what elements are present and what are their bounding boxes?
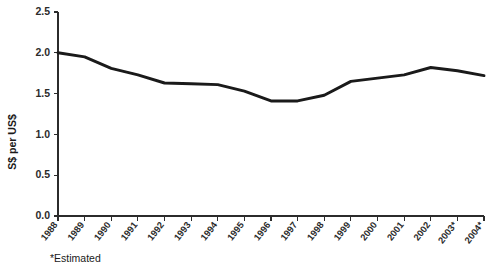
exchange-rate-line-chart: 0.00.51.01.52.02.5 198819891990199119921… bbox=[0, 0, 498, 275]
y-tick-label: 2.5 bbox=[35, 5, 50, 17]
y-tick-label: 1.5 bbox=[35, 87, 50, 99]
data-series bbox=[58, 53, 484, 101]
x-tick-label: 2000 bbox=[358, 220, 379, 242]
x-tick-label: 1996 bbox=[252, 220, 273, 242]
x-tick-label: 1994 bbox=[199, 219, 220, 242]
x-tick-label: 1999 bbox=[332, 220, 353, 242]
y-axis: 0.00.51.01.52.02.5 bbox=[35, 5, 58, 221]
x-tick-label: 1997 bbox=[279, 220, 300, 242]
x-tick-label: 1998 bbox=[305, 220, 326, 242]
chart-canvas: 0.00.51.01.52.02.5 198819891990199119921… bbox=[0, 0, 498, 275]
y-tick-label: 0.0 bbox=[35, 209, 50, 221]
x-tick-label: 1990 bbox=[92, 220, 113, 242]
x-tick-label: 1991 bbox=[119, 220, 140, 242]
x-tick-label: 1993 bbox=[172, 220, 193, 242]
footnote-estimated: *Estimated bbox=[50, 252, 101, 264]
x-axis: 1988198919901991199219931994199519961997… bbox=[39, 216, 486, 245]
y-tick-label: 1.0 bbox=[35, 128, 50, 140]
y-axis-title: S$ per US$ bbox=[6, 114, 18, 170]
x-tick-label: 2004* bbox=[463, 220, 486, 246]
x-tick-label: 2002 bbox=[412, 220, 433, 242]
x-tick-label: 1995 bbox=[225, 220, 246, 242]
x-tick-label: 1989 bbox=[66, 220, 87, 242]
y-tick-label: 2.0 bbox=[35, 46, 50, 58]
x-tick-label: 2003* bbox=[436, 220, 459, 246]
x-tick-label: 1992 bbox=[145, 220, 166, 242]
y-tick-label: 0.5 bbox=[35, 168, 50, 180]
x-tick-label: 1988 bbox=[39, 220, 60, 242]
x-tick-label: 2001 bbox=[385, 220, 406, 242]
exchange-rate-line bbox=[58, 53, 484, 101]
